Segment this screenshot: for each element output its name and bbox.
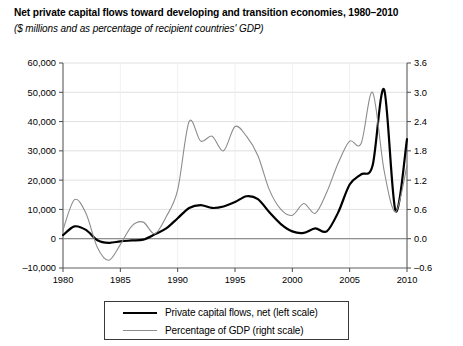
svg-text:2000: 2000 xyxy=(282,275,303,285)
gridlines xyxy=(63,63,407,268)
svg-text:1995: 1995 xyxy=(225,275,246,285)
svg-text:10,000: 10,000 xyxy=(28,205,56,215)
svg-text:20,000: 20,000 xyxy=(28,176,56,186)
svg-text:3.0: 3.0 xyxy=(414,88,427,98)
svg-text:0.0: 0.0 xyxy=(414,234,427,244)
svg-text:3.6: 3.6 xyxy=(414,58,427,68)
svg-text:0: 0 xyxy=(51,234,56,244)
legend-label: Private capital flows, net (left scale) xyxy=(165,307,318,318)
svg-text:1985: 1985 xyxy=(110,275,131,285)
svg-text:1.8: 1.8 xyxy=(414,146,427,156)
legend-swatch-line-icon xyxy=(123,330,157,331)
legend-swatch-line-icon xyxy=(123,312,157,314)
svg-text:60,000: 60,000 xyxy=(28,58,56,68)
svg-text:–10,000: –10,000 xyxy=(22,263,56,273)
legend-item-private-capital-flows: Private capital flows, net (left scale) xyxy=(105,303,348,322)
legend-label: Percentage of GDP (right scale) xyxy=(165,325,303,336)
svg-text:2.4: 2.4 xyxy=(414,117,427,127)
svg-text:1990: 1990 xyxy=(167,275,188,285)
chart-legend: Private capital flows, net (left scale) … xyxy=(104,301,349,340)
svg-text:40,000: 40,000 xyxy=(28,117,56,127)
svg-text:–0.6: –0.6 xyxy=(414,263,432,273)
svg-text:1.2: 1.2 xyxy=(414,176,427,186)
chart-figure: Net private capital flows toward develop… xyxy=(0,0,463,346)
svg-text:1980: 1980 xyxy=(53,275,74,285)
svg-text:2005: 2005 xyxy=(339,275,360,285)
svg-text:30,000: 30,000 xyxy=(28,146,56,156)
legend-item-percentage-of-gdp: Percentage of GDP (right scale) xyxy=(105,321,348,340)
svg-text:50,000: 50,000 xyxy=(28,88,56,98)
svg-text:2010: 2010 xyxy=(397,275,418,285)
svg-text:0.6: 0.6 xyxy=(414,205,427,215)
plot-area: –10,000010,00020,00030,00040,00050,00060… xyxy=(0,0,463,346)
